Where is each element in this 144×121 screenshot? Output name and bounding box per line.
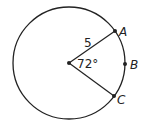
point-a-label: A [118, 25, 127, 39]
point-b-label: B [130, 58, 138, 72]
point-b [123, 62, 127, 66]
angle-label: 72° [77, 57, 98, 71]
point-c [112, 94, 116, 98]
circle-diagram: 5 72° A B C [0, 0, 144, 121]
radius-label: 5 [84, 36, 92, 50]
point-a [113, 29, 117, 33]
point-c-label: C [117, 93, 126, 107]
center-point [67, 61, 71, 65]
